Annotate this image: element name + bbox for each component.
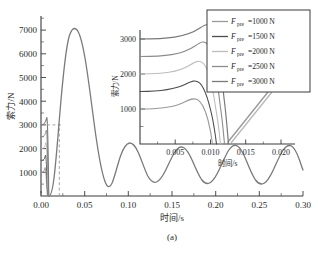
main-xtick-label-6: 0.30: [295, 200, 311, 210]
legend-label-prefix-2: F: [230, 47, 236, 56]
legend-label-value-4: =3000 N: [248, 77, 275, 86]
main-ytick-label-5000: 5000: [19, 73, 38, 83]
legend-label-sub-4: pre: [237, 81, 244, 87]
legend-label-sub-2: pre: [237, 51, 244, 57]
main-ytick-label-4000: 4000: [19, 97, 38, 107]
main-xtick-label-0: 0.00: [33, 200, 49, 210]
legend-label-value-0: =1000 N: [248, 17, 275, 26]
inset-xaxis-label: 时间/s: [218, 158, 237, 168]
legend-label-value-3: =2500 N: [248, 62, 275, 71]
legend-label-prefix-4: F: [230, 77, 236, 86]
legend-label-prefix-1: F: [230, 32, 236, 41]
main-ytick-label-2000: 2000: [19, 144, 38, 154]
figure-container: 1000 2000 3000 4000 5000 6000 7000 0.00 …: [0, 0, 318, 259]
legend-label-value-2: =2000 N: [248, 47, 275, 56]
legend-label-sub-3: pre: [237, 66, 244, 72]
main-xtick-label-2: 0.10: [120, 200, 136, 210]
legend-label-prefix-0: F: [230, 17, 236, 26]
inset-xtick-label-0: 0.005: [166, 148, 184, 157]
legend-label-value-1: =1500 N: [248, 32, 275, 41]
legend-label-sub-1: pre: [237, 36, 244, 42]
legend-label-sub-0: pre: [237, 21, 244, 27]
main-ytick-label-7000: 7000: [19, 25, 38, 35]
figure-caption: (a): [167, 232, 177, 242]
main-x-ticks: [41, 191, 303, 196]
inset-ytick-label-2000: 2000: [120, 70, 136, 79]
main-yaxis-label: 索力/N: [5, 92, 16, 120]
main-xaxis-label: 时间/s: [160, 212, 185, 223]
inset-xtick-label-3: 0.020: [272, 148, 290, 157]
main-xtick-label-1: 0.05: [77, 200, 93, 210]
main-xtick-label-5: 0.25: [251, 200, 267, 210]
inset-yaxis-label: 索力/N: [110, 75, 120, 97]
chart-svg: 1000 2000 3000 4000 5000 6000 7000 0.00 …: [0, 0, 318, 259]
main-ytick-label-3000: 3000: [19, 120, 38, 130]
main-ytick-label-6000: 6000: [19, 49, 38, 59]
main-ytick-label-1000: 1000: [19, 168, 38, 178]
inset-xtick-label-2: 0.015: [237, 148, 255, 157]
legend: F pre =1000 N F pre =1500 N F pre =2000 …: [207, 10, 310, 92]
inset-ytick-label-1000: 1000: [120, 105, 136, 114]
main-xtick-label-4: 0.20: [208, 200, 224, 210]
inset-xtick-label-1: 0.010: [202, 148, 220, 157]
inset-ytick-label-3000: 3000: [120, 35, 136, 44]
main-xtick-label-3: 0.15: [164, 200, 180, 210]
legend-label-prefix-3: F: [230, 62, 236, 71]
